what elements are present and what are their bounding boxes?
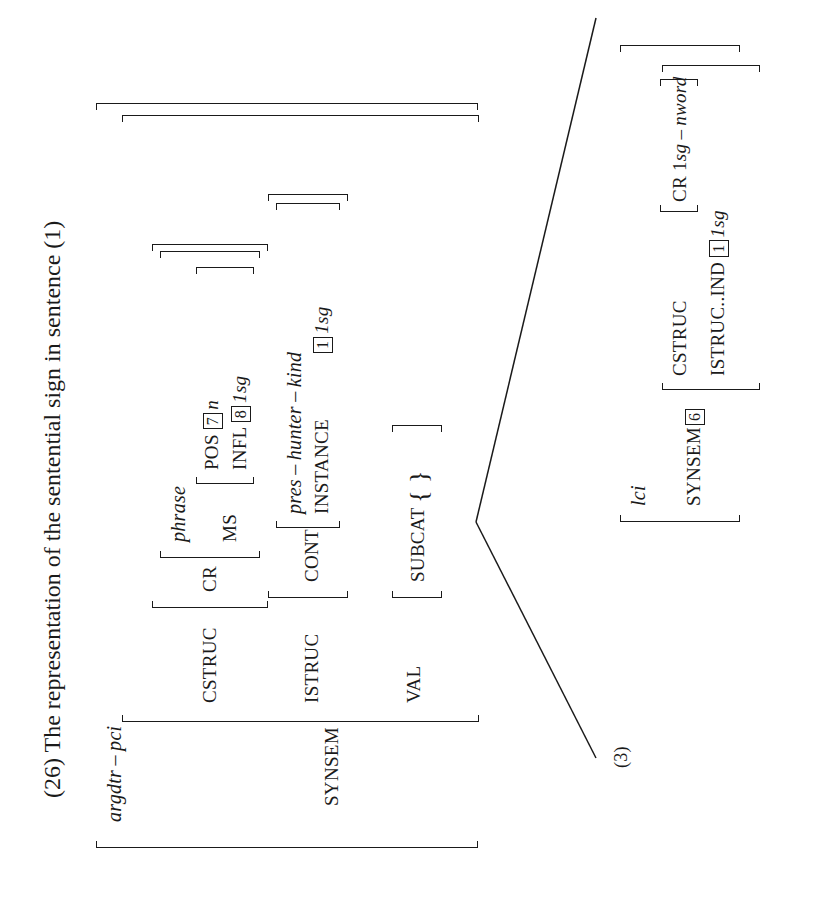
avm-daughter-type: lci: [628, 485, 648, 506]
daughter-istruc-ind-label: ISTRUC..IND: [707, 262, 728, 376]
avm-daughter-right-bracket: [620, 45, 740, 52]
daughter-istruc-ind: ISTRUC..IND 11sg: [708, 210, 729, 376]
tree-label: (3): [612, 746, 630, 768]
daughter-synsem: SYNSEM6: [684, 406, 705, 506]
daughter-cstruc-label: CSTRUC: [670, 300, 689, 376]
daughter-synsem-right-bracket: [662, 65, 760, 72]
daughter-cr-left-bracket: [660, 205, 698, 212]
daughter-cr-value: sg – nword: [669, 76, 690, 161]
daughter-synsem-label: SYNSEM: [683, 427, 704, 506]
daughter-ind-value: 1sg: [707, 210, 728, 237]
daughter-synsem-left-bracket: [662, 383, 760, 390]
daughter-ind-tag: 1: [709, 240, 729, 256]
avm-daughter-left-bracket: [620, 515, 740, 522]
daughter-cr-text: CR 1: [669, 161, 690, 202]
daughter-synsem-tag: 6: [685, 409, 705, 425]
daughter-cr: CR 1sg – nword: [670, 76, 689, 202]
rotated-page: (26) The representation of the sententia…: [0, 0, 816, 918]
